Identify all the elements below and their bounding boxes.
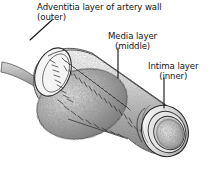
branch-vessel [1, 62, 36, 86]
label-adventitia-line1: Adventitia layer of artery wall [37, 2, 162, 12]
label-adventitia-line2: (outer) [37, 12, 162, 22]
label-media: Media layer (middle) [108, 31, 157, 51]
label-intima-line1: Intima layer [148, 61, 198, 71]
label-adventitia: Adventitia layer of artery wall (outer) [37, 2, 162, 22]
label-intima-line2: (inner) [148, 71, 198, 81]
artery-illustration [0, 0, 210, 171]
label-intima: Intima layer (inner) [148, 61, 198, 81]
leader-line-adventitia [30, 20, 52, 40]
artery-diagram-figure: Adventitia layer of artery wall (outer) … [0, 0, 210, 171]
label-media-line1: Media layer [108, 31, 157, 41]
label-media-line2: (middle) [108, 41, 157, 51]
